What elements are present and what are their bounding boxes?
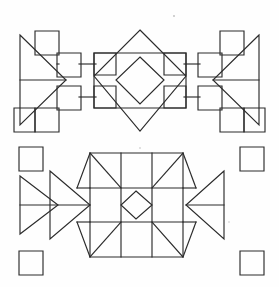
scan-speck	[139, 147, 141, 149]
scan-speck	[173, 15, 175, 17]
quilt-pattern-illustration	[0, 0, 279, 287]
scan-speck	[228, 221, 229, 222]
paper-background	[0, 0, 279, 287]
drawing-canvas	[0, 0, 279, 287]
